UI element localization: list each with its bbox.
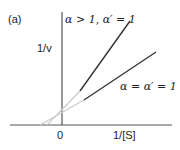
y-axis-label: 1/v — [37, 43, 52, 54]
panel-label: (a) — [8, 14, 21, 25]
line-alpha-gt-1-extension — [47, 91, 80, 125]
line-label-alpha-eq-1: α = α′ = 1 — [120, 81, 177, 92]
origin-label: 0 — [57, 130, 63, 141]
x-axis-label: 1/[S] — [113, 130, 136, 141]
line-label-alpha-gt-1: α > 1, α′ = 1 — [65, 14, 136, 25]
